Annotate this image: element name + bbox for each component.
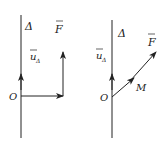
figure-right: Δ F u Δ M O [96,20,156,138]
force-label: F [54,23,63,36]
force-label: F [147,36,156,49]
force-arrow [130,52,156,81]
axis-label: Δ [117,27,126,40]
figure-left: Δ F u Δ O [9,15,63,138]
unit-vector-sub: Δ [35,57,40,64]
origin-label: O [100,92,108,103]
point-label: M [135,82,147,93]
origin-label: O [9,91,17,102]
unit-vector-sub: Δ [101,56,106,63]
axis-label: Δ [24,20,33,33]
diagram-canvas: Δ F u Δ O Δ F u Δ M O [0,0,165,148]
